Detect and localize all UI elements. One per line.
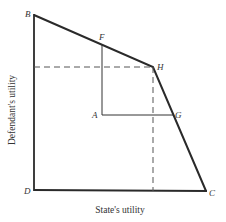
utility-frontier-line: [34, 15, 206, 191]
point-label-d: D: [23, 186, 31, 196]
point-label-a: A: [91, 110, 98, 120]
x-axis-label: State's utility: [95, 205, 145, 215]
x-axis-line: [34, 190, 207, 191]
y-axis-label: Defendant's utility: [7, 75, 17, 145]
bargaining-diagram: B D C H F A G State's utility Defendant'…: [0, 0, 226, 222]
point-label-h: H: [156, 62, 164, 72]
point-label-c: C: [209, 188, 216, 198]
point-label-b: B: [25, 9, 31, 19]
point-label-g: G: [175, 110, 182, 120]
point-label-f: F: [98, 32, 105, 42]
